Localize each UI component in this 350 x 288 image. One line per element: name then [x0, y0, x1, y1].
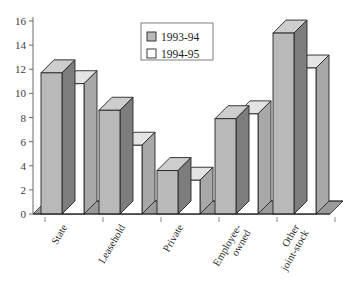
bar-1993-94-state [41, 60, 75, 214]
bar-side-face [62, 60, 75, 214]
y-axis-tick-label: 0 [21, 208, 27, 220]
bar-side-face [294, 20, 307, 214]
y-axis-tick-label: 12 [15, 63, 26, 75]
bar-front-face [99, 110, 120, 214]
bar-front-face [215, 119, 236, 214]
legend-label-1993-94[interactable]: 1993-94 [161, 31, 200, 43]
y-axis-tick-label: 10 [15, 87, 27, 99]
legend-swatch-1993-94[interactable] [147, 32, 156, 41]
bar-side-face [120, 97, 133, 214]
y-axis-tick-label: 8 [21, 112, 27, 124]
chart-legend[interactable]: 1993-941994-95 [141, 23, 213, 60]
y-axis-tick-label: 6 [21, 136, 27, 148]
bar-1993-94-leasehold [99, 97, 133, 214]
y-axis-tick-label: 14 [15, 39, 27, 51]
legend-label-1994-95[interactable]: 1994-95 [161, 48, 200, 60]
bar-front-face [41, 73, 62, 214]
bar-1993-94-private [157, 158, 191, 214]
bar-side-face [236, 106, 249, 214]
y-axis-tick-label: 16 [15, 15, 27, 27]
bar-side-face [142, 132, 155, 214]
bar-side-face [84, 71, 97, 214]
bar-1993-94-other-joint-stock [273, 20, 307, 214]
bar-1993-94-employee-owned [215, 106, 249, 214]
bar-side-face [258, 101, 271, 214]
bar-front-face [157, 171, 178, 214]
legend-swatch-1994-95[interactable] [147, 49, 156, 58]
chart-canvas: 0246810121416 StateLeaseholdPrivateEmplo… [0, 0, 350, 288]
y-axis-tick-label: 2 [21, 184, 27, 196]
bar-side-face [316, 55, 329, 214]
bar-front-face [273, 33, 294, 214]
y-axis-tick-label: 4 [21, 160, 27, 172]
bar-chart: 0246810121416 StateLeaseholdPrivateEmplo… [0, 0, 350, 288]
